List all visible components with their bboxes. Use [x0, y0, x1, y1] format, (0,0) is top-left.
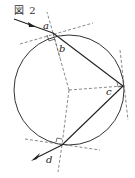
label-a: a — [43, 20, 49, 31]
label-c: c — [106, 86, 112, 97]
label-b: b — [59, 43, 65, 54]
label-d: d — [46, 154, 52, 165]
right-angle-mark-bottom — [56, 138, 62, 142]
droplet-diagram: a b c d — [0, 0, 135, 178]
incoming-arrow-icon — [28, 22, 36, 27]
